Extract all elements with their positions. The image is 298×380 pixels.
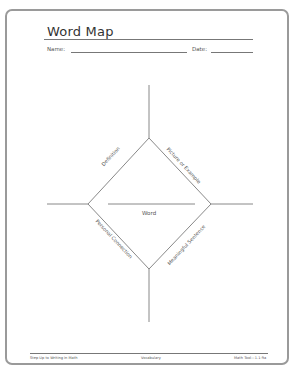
footer-category: Vocabulary [141, 356, 161, 360]
footer-tool-id: Math Tool—1.1-9a [234, 356, 266, 360]
word-answer-area[interactable] [108, 195, 195, 204]
footer-source: Step Up to Writing in Math [30, 356, 78, 360]
footer-rule [30, 353, 268, 354]
word-map-diagram [0, 0, 298, 380]
definition-area[interactable] [47, 90, 142, 195]
center-word-label: Word [142, 210, 156, 216]
meaningful-sentence-area[interactable] [156, 215, 253, 320]
picture-or-example-area[interactable] [156, 90, 253, 195]
personal-connection-area[interactable] [47, 215, 142, 320]
